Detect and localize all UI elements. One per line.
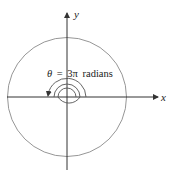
y-axis-label: y <box>73 8 79 20</box>
theta-annotation: θ = 3π radians <box>47 68 113 79</box>
angle-unit: radians <box>83 68 113 79</box>
equals-sign: = <box>57 68 63 79</box>
angle-diagram: y x θ = 3π radians <box>0 0 174 176</box>
angle-value: 3π <box>67 68 78 79</box>
x-axis-label: x <box>160 91 166 103</box>
theta-symbol: θ <box>47 68 52 79</box>
